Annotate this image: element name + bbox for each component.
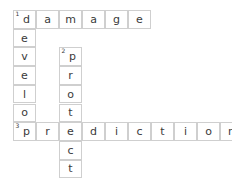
- crossword-cell-r0-c4[interactable]: g: [105, 10, 128, 29]
- crossword-cell-r5-c2[interactable]: t: [59, 104, 82, 123]
- crossword-cell-r1-c0[interactable]: e: [13, 29, 36, 48]
- crossword-cell-r7-c2[interactable]: c: [59, 141, 82, 160]
- crossword-cell-r0-c3[interactable]: a: [82, 10, 105, 29]
- crossword-cell-r2-c2[interactable]: 2p: [59, 47, 82, 66]
- cell-letter: l: [23, 89, 26, 100]
- cell-letter: e: [136, 14, 143, 25]
- cell-letter: v: [21, 51, 28, 62]
- crossword-cell-r0-c5[interactable]: e: [128, 10, 151, 29]
- cell-letter: r: [68, 70, 73, 81]
- cell-letter: i: [184, 126, 187, 137]
- cell-letter: e: [67, 126, 74, 137]
- cell-letter: e: [21, 33, 28, 44]
- crossword-cell-r6-c3[interactable]: d: [82, 122, 105, 141]
- crossword-cell-r8-c2[interactable]: t: [59, 160, 82, 179]
- cell-letter: o: [205, 126, 212, 137]
- crossword-cell-r6-c1[interactable]: r: [36, 122, 59, 141]
- crossword-cell-r0-c0[interactable]: 1d: [13, 10, 36, 29]
- crossword-cell-r6-c8[interactable]: o: [197, 122, 220, 141]
- crossword-cell-r6-c6[interactable]: t: [151, 122, 174, 141]
- cell-letter: p: [69, 51, 76, 62]
- crossword-cell-r0-c1[interactable]: a: [36, 10, 59, 29]
- crossword-cell-r6-c2[interactable]: e: [59, 122, 82, 141]
- cell-letter: g: [113, 14, 120, 25]
- cell-letter: d: [23, 14, 30, 25]
- cell-letter: t: [68, 163, 72, 174]
- crossword-cell-r3-c2[interactable]: r: [59, 66, 82, 85]
- crossword-cell-r6-c7[interactable]: i: [174, 122, 197, 141]
- cell-letter: t: [160, 126, 164, 137]
- cell-letter: n: [228, 126, 232, 137]
- cell-letter: i: [115, 126, 118, 137]
- cell-letter: a: [44, 14, 51, 25]
- crossword-cell-r6-c9[interactable]: n: [220, 122, 232, 141]
- cell-letter: o: [21, 107, 28, 118]
- cell-letter: e: [21, 70, 28, 81]
- crossword-cell-r3-c0[interactable]: e: [13, 66, 36, 85]
- crossword-grid: 1damageev2perloot3predictionct: [0, 0, 232, 183]
- clue-number: 3: [16, 123, 20, 129]
- cell-letter: p: [23, 126, 30, 137]
- crossword-cell-r4-c0[interactable]: l: [13, 85, 36, 104]
- crossword-cell-r4-c2[interactable]: o: [59, 85, 82, 104]
- crossword-cell-r0-c2[interactable]: m: [59, 10, 82, 29]
- cell-letter: a: [90, 14, 97, 25]
- crossword-cell-r5-c0[interactable]: o: [13, 104, 36, 123]
- clue-number: 2: [62, 48, 66, 54]
- cell-letter: t: [68, 107, 72, 118]
- cell-letter: c: [67, 145, 73, 156]
- crossword-cell-r6-c5[interactable]: c: [128, 122, 151, 141]
- cell-letter: m: [65, 14, 76, 25]
- cell-letter: o: [67, 89, 74, 100]
- crossword-cell-r6-c4[interactable]: i: [105, 122, 128, 141]
- crossword-cell-r6-c0[interactable]: 3p: [13, 122, 36, 141]
- cell-letter: d: [90, 126, 97, 137]
- cell-letter: c: [136, 126, 142, 137]
- clue-number: 1: [16, 11, 20, 17]
- cell-letter: r: [45, 126, 50, 137]
- crossword-cell-r2-c0[interactable]: v: [13, 47, 36, 66]
